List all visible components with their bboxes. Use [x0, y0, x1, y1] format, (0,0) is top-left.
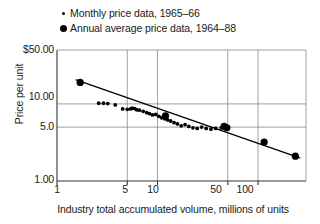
- plot-frame: [57, 50, 306, 181]
- plot-area: [0, 0, 320, 224]
- x-tick-marks: [57, 181, 258, 185]
- trend-line: [76, 80, 300, 158]
- experience-curve-chart: Monthly price data, 1965–66 Annual avera…: [0, 0, 320, 224]
- gridlines: [57, 50, 306, 181]
